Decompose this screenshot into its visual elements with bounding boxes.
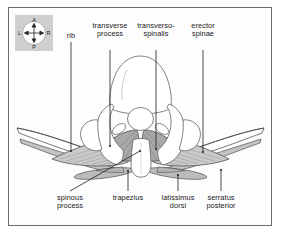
compass-label-right: R [47,30,51,36]
label-transversospinalis: transverso- spinalis [131,22,181,39]
orientation-compass: A L R P [15,15,53,51]
anatomy-figure: A L R P rib transverse process transvers… [0,0,281,234]
label-transverse-process: transverse process [86,22,134,39]
label-spinous-process: spinous process [48,194,92,211]
label-latissimus-dorsi: latissimus dorsi [155,194,201,211]
label-erector-spinae: erector spinae [180,22,226,39]
label-trapezius: trapezius [105,194,151,202]
label-serratus-posterior: serratus posterior [198,194,244,211]
compass-label-anterior: A [32,17,36,23]
label-rib: rib [56,32,86,40]
compass-label-posterior: P [32,44,36,50]
compass-label-left: L [18,30,22,36]
